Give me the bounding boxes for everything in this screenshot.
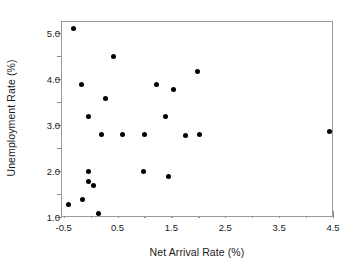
- data-points-layer: [62, 22, 332, 216]
- data-point: [197, 132, 202, 137]
- y-axis-tick-label: 5.0: [20, 27, 60, 38]
- data-point: [171, 87, 176, 92]
- data-point: [96, 211, 101, 216]
- data-point: [142, 132, 147, 137]
- y-axis-tick-label: 3.0: [20, 119, 60, 130]
- data-point: [79, 82, 84, 87]
- x-axis-tick-label: 0.5: [98, 222, 138, 233]
- data-point: [195, 69, 200, 74]
- x-axis-tick-label: 3.5: [259, 222, 299, 233]
- data-point: [71, 26, 76, 31]
- x-axis-tick: [333, 211, 334, 218]
- y-axis-title-text: Unemployment Rate (%): [5, 59, 17, 176]
- data-point: [91, 183, 96, 188]
- data-point: [120, 132, 125, 137]
- data-point: [166, 174, 171, 179]
- data-point: [141, 169, 146, 174]
- y-axis-tick-label: 1.0: [20, 212, 60, 223]
- data-point: [111, 54, 116, 59]
- data-point: [99, 132, 104, 137]
- y-axis-tick-label: 2.0: [20, 165, 60, 176]
- data-point: [86, 114, 91, 119]
- data-point: [183, 133, 188, 138]
- x-axis-tick-label: 4.5: [313, 222, 352, 233]
- scatter-plot-figure: Unemployment Rate (%) Net Arrival Rate (…: [0, 0, 352, 272]
- data-point: [103, 96, 108, 101]
- data-point: [327, 129, 332, 134]
- x-axis-tick-label: -0.5: [44, 222, 84, 233]
- plot-area: [61, 21, 333, 217]
- data-point: [86, 169, 91, 174]
- y-axis-tick-label: 4.0: [20, 73, 60, 84]
- data-point: [80, 197, 85, 202]
- data-point: [163, 114, 168, 119]
- data-point: [66, 202, 71, 207]
- data-point: [154, 82, 159, 87]
- y-axis-title: Unemployment Rate (%): [0, 0, 22, 272]
- x-axis-title: Net Arrival Rate (%): [60, 246, 334, 258]
- x-axis-tick-label: 2.5: [205, 222, 245, 233]
- x-axis-tick-label: 1.5: [151, 222, 191, 233]
